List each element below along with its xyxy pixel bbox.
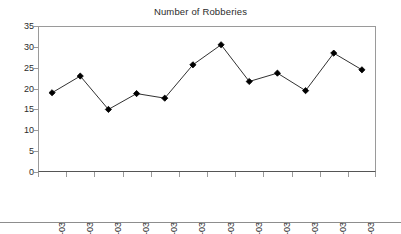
data-series-layer (38, 26, 376, 172)
y-tick-label: 25 (0, 63, 34, 72)
data-point-marker (133, 90, 139, 96)
x-axis-tick-marks (38, 172, 376, 177)
robberies-line-series (38, 26, 376, 172)
chart-title: Number of Robberies (0, 6, 401, 17)
x-tick-mark (235, 172, 236, 177)
y-axis: 05101520253035 (0, 26, 34, 172)
y-tick-label: 0 (0, 168, 34, 177)
x-tick-mark (292, 172, 293, 177)
data-point-marker (359, 67, 365, 73)
x-tick-label: Jan-03 (57, 222, 67, 234)
x-tick-label: Dec-03 (366, 222, 376, 234)
x-tick-mark (375, 172, 376, 177)
y-tick-label: 10 (0, 126, 34, 135)
x-tick-label: May-03 (169, 222, 179, 234)
x-tick-label: Jun-03 (197, 222, 207, 234)
data-point-marker (274, 70, 280, 76)
y-tick-label: 15 (0, 105, 34, 114)
x-tick-label: Nov-03 (338, 222, 348, 234)
x-tick-label: Jul-03 (226, 222, 236, 234)
series-line (52, 45, 362, 110)
bottom-divider (0, 222, 401, 223)
x-tick-mark (348, 172, 349, 177)
y-tick-label: 5 (0, 147, 34, 156)
x-tick-mark (151, 172, 152, 177)
x-tick-label: Sep-03 (282, 222, 292, 234)
y-tick-label: 35 (0, 22, 34, 31)
x-tick-mark (179, 172, 180, 177)
chart-figure: Number of Robberies 05101520253035 Jan-0… (0, 0, 401, 234)
x-tick-label: Apr-03 (141, 222, 151, 234)
x-tick-mark (207, 172, 208, 177)
y-tick-label: 30 (0, 42, 34, 51)
x-tick-label: Oct-03 (310, 222, 320, 234)
x-tick-label: Aug-03 (254, 222, 264, 234)
x-tick-mark (123, 172, 124, 177)
x-axis: Jan-03Feb-03Mar-03Apr-03May-03Jun-03Jul-… (38, 178, 376, 224)
x-tick-mark (263, 172, 264, 177)
x-tick-mark (38, 172, 39, 177)
x-tick-mark (320, 172, 321, 177)
y-tick-label: 20 (0, 84, 34, 93)
x-tick-label: Mar-03 (113, 222, 123, 234)
data-point-marker (49, 90, 55, 96)
x-tick-mark (94, 172, 95, 177)
x-tick-mark (66, 172, 67, 177)
x-tick-label: Feb-03 (85, 222, 95, 234)
